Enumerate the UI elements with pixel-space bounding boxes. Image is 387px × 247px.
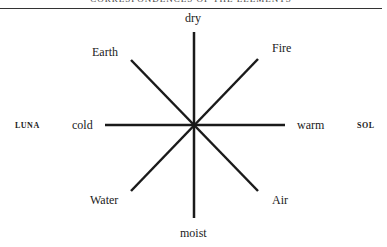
label-water: Water bbox=[90, 194, 118, 206]
elements-diagram bbox=[0, 0, 387, 247]
label-moist: moist bbox=[180, 227, 207, 239]
label-warm: warm bbox=[297, 119, 324, 131]
label-earth: Earth bbox=[92, 46, 118, 58]
label-cold: cold bbox=[72, 119, 93, 131]
label-air: Air bbox=[272, 194, 288, 206]
label-dry: dry bbox=[185, 12, 201, 24]
label-luna: LUNA bbox=[15, 122, 40, 130]
label-fire: Fire bbox=[272, 42, 291, 54]
label-sol: SOL bbox=[357, 122, 375, 130]
